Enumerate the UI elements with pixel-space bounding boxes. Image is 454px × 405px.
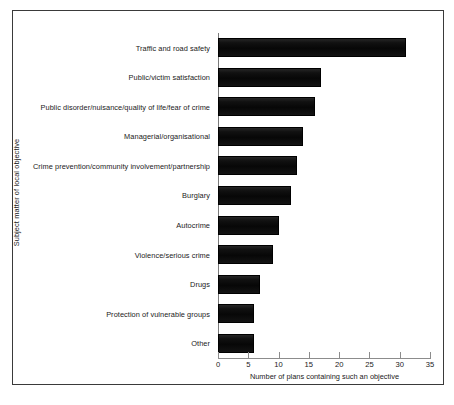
category-label: Autocrime [176,221,210,230]
x-tick-label: 0 [203,360,233,369]
category-label: Other [191,339,210,348]
bar-row: Drugs [218,269,430,299]
bar-row: Protection of vulnerable groups [218,299,430,329]
category-label: Protection of vulnerable groups [106,309,210,318]
x-tick-label: 10 [264,360,294,369]
bar-row: Other [218,328,430,358]
x-tick-mark [339,352,340,358]
category-label: Public disorder/nuisance/quality of life… [41,102,210,111]
category-label: Traffic and road safety [136,43,210,52]
bar [218,127,303,146]
x-axis-title: Number of plans containing such an objec… [218,372,431,381]
x-tick-label: 15 [294,360,324,369]
x-tick-label: 20 [324,360,354,369]
category-label: Crime prevention/community involvement/p… [33,161,210,170]
bar [218,68,321,87]
bar-row: Public/victim satisfaction [218,63,430,93]
bar [218,304,254,323]
x-tick-mark [279,352,280,358]
category-label: Public/victim satisfaction [129,73,210,82]
bar [218,216,279,235]
x-tick-label: 30 [385,360,415,369]
bar-row: Burglary [218,181,430,211]
plot-area: Traffic and road safetyPublic/victim sat… [218,33,430,358]
x-tick-mark [218,352,219,358]
x-tick-mark [369,352,370,358]
x-tick-mark [309,352,310,358]
bar-row: Autocrime [218,210,430,240]
bar [218,186,291,205]
x-tick-mark [248,352,249,358]
x-tick-label: 35 [415,360,445,369]
bar [218,38,406,57]
category-label: Burglary [182,191,210,200]
x-tick-label: 25 [354,360,384,369]
bar-row: Violence/serious crime [218,240,430,270]
bar [218,156,297,175]
x-tick-label: 5 [233,360,263,369]
bar-row: Crime prevention/community involvement/p… [218,151,430,181]
bar-row: Public disorder/nuisance/quality of life… [218,92,430,122]
category-label: Violence/serious crime [135,250,210,259]
bar [218,334,254,353]
x-tick-mark [430,352,431,358]
bar-row: Traffic and road safety [218,33,430,63]
x-tick-mark [400,352,401,358]
chart-figure: Subject matter of local objective Traffi… [0,0,454,405]
bar-row: Managerial/organisational [218,122,430,152]
x-axis-line [218,358,431,359]
y-axis-title: Subject matter of local objective [12,103,21,283]
bar [218,275,260,294]
category-label: Drugs [190,280,210,289]
category-label: Managerial/organisational [124,132,210,141]
bar [218,97,315,116]
bar [218,245,273,264]
